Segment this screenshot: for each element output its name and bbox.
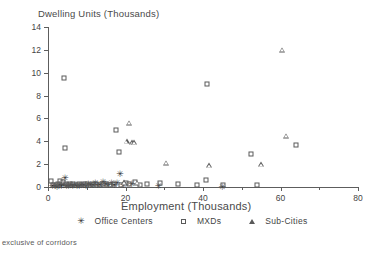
data-point bbox=[175, 182, 180, 187]
data-point bbox=[163, 161, 169, 166]
data-point bbox=[249, 151, 254, 156]
y-tick-label: 10 bbox=[32, 68, 41, 78]
legend-marker bbox=[179, 217, 188, 226]
data-point bbox=[126, 121, 132, 126]
square-marker-icon bbox=[181, 219, 186, 224]
data-point bbox=[114, 127, 119, 132]
data-point bbox=[255, 182, 260, 187]
data-point bbox=[116, 149, 121, 154]
y-tick-mark bbox=[44, 118, 49, 119]
data-point bbox=[258, 162, 264, 167]
legend-entry: ✳Office Centers bbox=[77, 216, 153, 226]
data-point bbox=[61, 76, 66, 81]
data-point bbox=[283, 133, 289, 138]
triangle-marker-icon bbox=[134, 181, 140, 186]
asterisk-marker-icon: ✳ bbox=[116, 169, 124, 178]
x-tick-minor bbox=[319, 187, 320, 190]
y-tick-mark bbox=[44, 73, 49, 74]
x-tick-minor bbox=[164, 187, 165, 190]
square-marker-icon bbox=[61, 76, 66, 81]
y-tick-mark bbox=[44, 96, 49, 97]
data-point bbox=[206, 163, 212, 168]
legend-marker: ✳ bbox=[77, 217, 86, 226]
y-axis-title: Dwelling Units (Thousands) bbox=[38, 8, 159, 19]
data-point bbox=[195, 182, 200, 187]
legend-marker bbox=[247, 217, 256, 226]
square-marker-icon bbox=[221, 183, 226, 188]
square-marker-icon bbox=[195, 182, 200, 187]
x-tick-minor bbox=[242, 187, 243, 190]
data-point bbox=[127, 182, 132, 187]
triangle-marker-icon bbox=[163, 161, 169, 166]
y-tick-mark bbox=[44, 141, 49, 142]
x-tick-label: 40 bbox=[198, 193, 207, 203]
triangle-marker-icon bbox=[126, 121, 132, 126]
triangle-marker-icon bbox=[279, 47, 285, 52]
data-point bbox=[111, 181, 116, 186]
data-point bbox=[121, 180, 127, 185]
triangle-marker-icon bbox=[131, 140, 137, 145]
square-marker-icon bbox=[294, 142, 299, 147]
asterisk-marker-icon: ✳ bbox=[77, 217, 85, 226]
y-tick-label: 4 bbox=[36, 136, 41, 146]
x-tick-mark bbox=[358, 187, 359, 191]
data-point bbox=[158, 181, 163, 186]
square-marker-icon bbox=[116, 149, 121, 154]
data-point bbox=[294, 142, 299, 147]
data-point bbox=[134, 181, 140, 186]
legend-label: Office Centers bbox=[95, 216, 153, 226]
x-tick-label: 20 bbox=[121, 193, 130, 203]
square-marker-icon bbox=[175, 182, 180, 187]
square-marker-icon bbox=[255, 182, 260, 187]
square-marker-icon bbox=[145, 181, 150, 186]
triangle-marker-icon bbox=[206, 163, 212, 168]
square-marker-icon bbox=[114, 127, 119, 132]
y-axis-line bbox=[48, 27, 49, 187]
plot-area: 02468101214 020406080 ✳✳✳✳✳✳✳✳✳✳✳✳✳✳✳✳✳✳… bbox=[48, 27, 358, 187]
y-tick-mark bbox=[44, 164, 49, 165]
y-tick-mark bbox=[44, 27, 49, 28]
y-tick-label: 6 bbox=[36, 113, 41, 123]
square-marker-icon bbox=[204, 178, 209, 183]
data-point bbox=[62, 146, 67, 151]
x-tick-mark bbox=[203, 187, 204, 191]
data-point bbox=[131, 140, 137, 145]
y-tick-label: 14 bbox=[32, 22, 41, 32]
legend-label: MXDs bbox=[197, 216, 221, 226]
data-point bbox=[204, 82, 209, 87]
square-marker-icon bbox=[127, 182, 132, 187]
y-tick-mark bbox=[44, 50, 49, 51]
triangle-marker-icon bbox=[258, 162, 264, 167]
x-tick-mark bbox=[281, 187, 282, 191]
x-tick-label: 80 bbox=[353, 193, 362, 203]
chart-footnote: exclusive of corridors bbox=[2, 238, 77, 247]
legend-label: Sub-Cities bbox=[265, 216, 307, 226]
y-tick-label: 12 bbox=[32, 45, 41, 55]
x-tick-label: 0 bbox=[46, 193, 51, 203]
legend-entry: MXDs bbox=[179, 216, 221, 226]
y-tick-label: 8 bbox=[36, 91, 41, 101]
data-point bbox=[204, 178, 209, 183]
data-point: ✳ bbox=[116, 168, 124, 177]
triangle-marker-icon bbox=[121, 180, 127, 185]
data-point bbox=[279, 47, 285, 52]
data-point bbox=[145, 181, 150, 186]
square-marker-icon bbox=[111, 181, 116, 186]
square-marker-icon bbox=[204, 82, 209, 87]
y-tick-label: 0 bbox=[36, 182, 41, 192]
legend-entry: Sub-Cities bbox=[247, 216, 307, 226]
chart-legend: ✳Office CentersMXDsSub-Cities bbox=[0, 216, 384, 226]
data-point bbox=[221, 183, 226, 188]
scatter-chart-figure: Dwelling Units (Thousands) Employment (T… bbox=[0, 0, 384, 255]
square-marker-icon bbox=[62, 146, 67, 151]
triangle-marker-icon bbox=[283, 133, 289, 138]
x-axis-title: Employment (Thousands) bbox=[121, 200, 251, 212]
square-marker-icon bbox=[249, 151, 254, 156]
y-tick-label: 2 bbox=[36, 159, 41, 169]
square-marker-icon bbox=[158, 181, 163, 186]
x-tick-label: 60 bbox=[276, 193, 285, 203]
triangle-marker-icon bbox=[249, 219, 255, 224]
